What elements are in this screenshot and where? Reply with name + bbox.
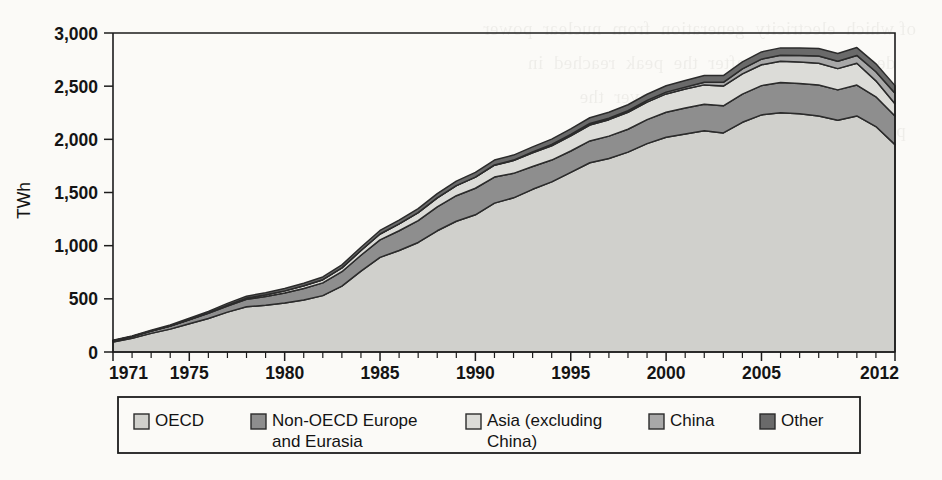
legend-label-oecd: OECD [155,411,204,430]
legend-swatch-oecd [134,414,149,429]
y-tick-label: 500 [69,289,98,309]
legend-swatch-other [760,414,775,429]
y-tick-label: 1,000 [54,236,98,256]
y-axis-label: TWh [14,182,34,219]
y-tick-label: 0 [88,343,98,363]
legend-swatch-asia-excluding-china [466,414,481,429]
legend-label-non-oecd-europe-and-eurasia: Non-OECD Europe [272,411,418,430]
x-tick-label: 2005 [742,363,781,383]
y-tick-label: 2,000 [54,130,98,150]
legend-swatch-china [649,414,664,429]
legend-label-asia-excluding-china: China) [487,432,537,451]
x-tick-label: 1975 [170,363,209,383]
x-tick-label: 1985 [361,363,400,383]
x-tick-label: 1990 [456,363,495,383]
area-series-oecd [113,113,895,352]
chart-legend: OECDNon-OECD Europeand EurasiaAsia (excl… [118,397,860,453]
legend-label-other: Other [781,411,824,430]
y-tick-label: 1,500 [54,183,98,203]
y-axis-ticks-group: 05001,0001,5002,0002,5003,000 [54,24,113,363]
figure-container: 05001,0001,5002,0002,5003,000 1971197519… [0,0,942,480]
area-bands-group [113,48,895,352]
y-tick-label: 3,000 [54,24,98,44]
stacked-area-chart: 05001,0001,5002,0002,5003,000 1971197519… [0,0,942,480]
legend-swatch-non-oecd-europe-and-eurasia [251,414,266,429]
x-tick-label: 1995 [551,363,590,383]
x-tick-label: 1980 [265,363,304,383]
x-tick-label: 1971 [109,363,148,383]
legend-label-asia-excluding-china: Asia (excluding [487,411,602,430]
legend-label-china: China [670,411,715,430]
x-tick-label: 2000 [647,363,686,383]
legend-label-non-oecd-europe-and-eurasia: and Eurasia [272,432,363,451]
x-axis-ticks-group: 197119751980198519901995200020052012 [109,352,899,383]
y-tick-label: 2,500 [54,77,98,97]
x-tick-label: 2012 [860,363,899,383]
